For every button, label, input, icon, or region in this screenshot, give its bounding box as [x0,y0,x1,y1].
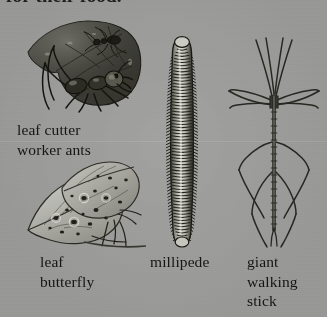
caption-millipede: millipede [150,252,209,272]
millipede-illustration [160,34,204,250]
caption-giant-walking-stick: giant walking stick [247,252,298,311]
figure-leaf-butterfly [22,158,150,252]
cut-off-heading-text: for their food. [6,0,122,7]
figure-leaf-cutter-ants [18,16,150,120]
figure-millipede [160,34,204,250]
perch-twig [84,242,146,247]
illustration-plate: for their food. [0,0,327,317]
butterfly-forewing [62,162,139,218]
caption-leaf-butterfly: leaf butterfly [40,252,94,291]
millipede-tail [175,237,189,247]
figure-giant-walking-stick [228,34,320,250]
millipede-head [175,37,190,48]
walking-stick-illustration [228,34,320,250]
leaf-butterfly-illustration [22,158,150,252]
caption-leaf-cutter-ants: leaf cutter worker ants [17,120,91,159]
stick-antennae [256,38,292,96]
leaf-cutter-ants-illustration [18,16,150,120]
